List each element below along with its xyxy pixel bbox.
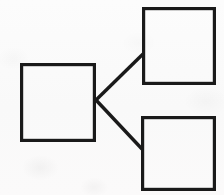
top-right-box[interactable] bbox=[144, 9, 215, 84]
diagram-canvas bbox=[0, 0, 224, 195]
left-box[interactable] bbox=[22, 65, 95, 141]
connector-left-to-bottom-right bbox=[96, 100, 142, 149]
bottom-right-box[interactable] bbox=[143, 118, 215, 190]
connector-left-to-top-right bbox=[96, 54, 143, 100]
diagram-vector-layer bbox=[0, 0, 224, 195]
